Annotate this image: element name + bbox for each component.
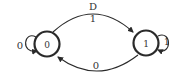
self-loop-label-1: 1 bbox=[164, 36, 170, 47]
transition-label-0-to-1: 1 bbox=[90, 13, 96, 24]
state-diagram: D 1 0 0 1 0 1 bbox=[0, 0, 174, 77]
state-0: 0 bbox=[35, 32, 60, 57]
self-loop-label-0: 0 bbox=[17, 40, 23, 51]
transition-label-1-to-0: 0 bbox=[93, 60, 99, 71]
transition-annotation-d: D bbox=[89, 1, 97, 12]
state-1: 1 bbox=[134, 31, 159, 56]
state-label-0: 0 bbox=[44, 40, 50, 50]
state-label-1: 1 bbox=[143, 39, 149, 49]
